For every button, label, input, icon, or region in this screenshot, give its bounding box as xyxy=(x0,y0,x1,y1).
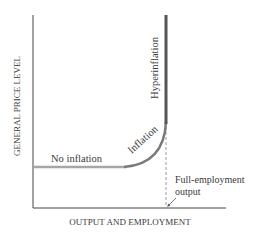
full-employment-label-line2: output xyxy=(175,186,201,197)
no-inflation-label: No inflation xyxy=(51,153,103,164)
inflation-label: Inflation xyxy=(126,123,161,156)
hyperinflation-label: Hyperinflation xyxy=(149,36,160,99)
y-axis-label: GENERAL PRICE LEVEL xyxy=(12,56,22,156)
x-axis-label: OUTPUT AND EMPLOYMENT xyxy=(69,217,191,227)
price-level-output-diagram: GENERAL PRICE LEVEL OUTPUT AND EMPLOYMEN… xyxy=(0,0,274,237)
full-employment-label-line1: Full-employment xyxy=(175,174,245,185)
